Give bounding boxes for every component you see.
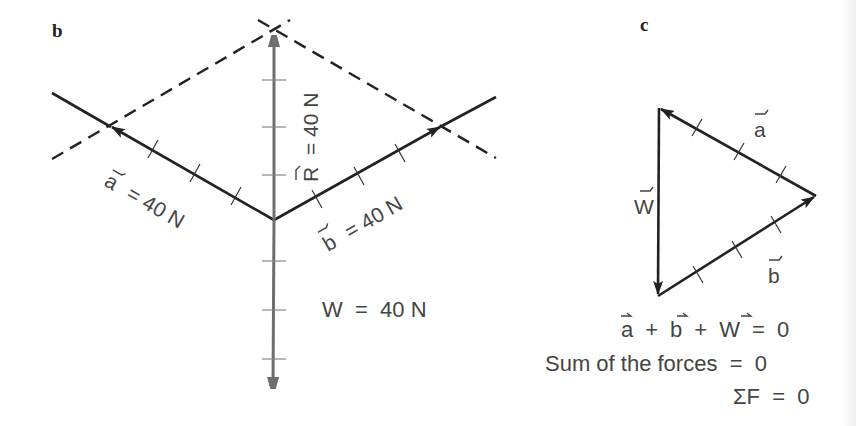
vector-a-symbol: a xyxy=(101,169,123,195)
vector-arrow-icon xyxy=(677,313,687,316)
vector-triangle xyxy=(658,108,816,296)
vector-b-label: b = 40 N xyxy=(316,186,407,255)
vector-arrow-icon xyxy=(621,313,631,316)
vector-b-symbol: b xyxy=(319,230,341,256)
triangle-side-w xyxy=(658,108,659,294)
svg-text:a+b+W= 0: a+b+W= 0 xyxy=(621,317,789,342)
svg-text:b = 40 N: b = 40 N xyxy=(319,192,407,256)
resultant-weight-axis xyxy=(262,36,286,388)
vector-arrow-icon xyxy=(741,313,751,316)
force-diagram: b xyxy=(0,0,856,426)
svg-text:a: a xyxy=(754,118,766,141)
vector-b-equation: = 40 N xyxy=(341,192,407,243)
vector-arrow-icon xyxy=(769,256,782,260)
resultant-label: R = 40 N xyxy=(296,93,322,182)
equation-sigma-f: ΣF = 0 xyxy=(733,384,810,409)
vector-a-label: a = 40 N xyxy=(101,167,190,233)
svg-text:a = 40 N: a = 40 N xyxy=(101,169,189,233)
vector-a-ticks xyxy=(148,140,241,205)
triangle-label-a: a xyxy=(754,110,768,141)
svg-text:b: b xyxy=(768,264,780,287)
triangle-label-w: W xyxy=(634,187,654,218)
vector-arrow-icon xyxy=(755,110,768,114)
triangle-ticks xyxy=(692,119,786,283)
equation-vector-sum: a+b+W= 0 xyxy=(621,313,789,342)
panel-c-label: c xyxy=(640,14,648,35)
vector-a-equation: = 40 N xyxy=(123,181,189,232)
vector-arrow-icon xyxy=(640,187,653,191)
resultant-symbol: R xyxy=(299,167,322,182)
svg-text:R = 40 N: R = 40 N xyxy=(299,93,322,182)
resultant-equation: = 40 N xyxy=(299,93,322,155)
svg-text:W: W xyxy=(634,195,654,218)
panel-b-label: b xyxy=(52,20,63,41)
triangle-label-b: b xyxy=(768,256,782,287)
equation-sum-of-forces: Sum of the forces = 0 xyxy=(545,351,767,376)
weight-equation: W = 40 N xyxy=(322,297,427,322)
triangle-side-b xyxy=(658,197,814,296)
